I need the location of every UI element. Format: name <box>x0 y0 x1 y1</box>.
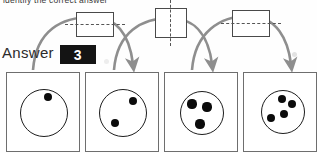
speckle <box>104 59 109 64</box>
answer-label: Answer <box>2 44 54 61</box>
answer-value-box[interactable]: 3 <box>60 45 96 64</box>
fold-box-3[interactable] <box>232 10 270 37</box>
fold-box-2[interactable] <box>155 8 187 38</box>
vertical-fold-dashed-line <box>170 0 171 46</box>
horizontal-fold-dashed-line <box>221 23 281 24</box>
circle-outline <box>99 89 147 137</box>
panel-2[interactable] <box>85 72 159 152</box>
panel-4[interactable] <box>243 72 317 152</box>
panel-3[interactable] <box>164 72 238 152</box>
horizontal-fold-dashed-line <box>65 24 125 25</box>
fold-box-1[interactable] <box>76 12 114 37</box>
panel-1[interactable] <box>6 72 80 152</box>
speckle <box>292 52 297 57</box>
dot <box>195 119 204 128</box>
dot <box>187 99 196 108</box>
worksheet-canvas: identify the correct answer Answer 3 <box>0 0 317 153</box>
instruction-text: identify the correct answer <box>3 0 108 5</box>
dot <box>202 102 211 111</box>
